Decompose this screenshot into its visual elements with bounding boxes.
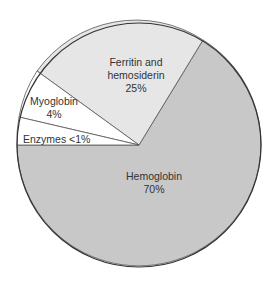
label-myoglobin: Myoglobin 4% xyxy=(26,95,82,121)
ferritin-name-1: Ferritin and xyxy=(96,56,176,69)
label-hemoglobin: Hemoglobin 70% xyxy=(118,170,190,196)
label-ferritin: Ferritin and hemosiderin 25% xyxy=(96,56,176,95)
myoglobin-name: Myoglobin xyxy=(26,95,82,108)
ferritin-name-2: hemosiderin xyxy=(96,69,176,82)
ferritin-value: 25% xyxy=(96,82,176,95)
label-enzymes: Enzymes <1% xyxy=(23,133,90,146)
myoglobin-value: 4% xyxy=(26,108,82,121)
enzymes-name: Enzymes <1% xyxy=(23,133,90,146)
hemoglobin-value: 70% xyxy=(118,183,190,196)
hemoglobin-name: Hemoglobin xyxy=(118,170,190,183)
